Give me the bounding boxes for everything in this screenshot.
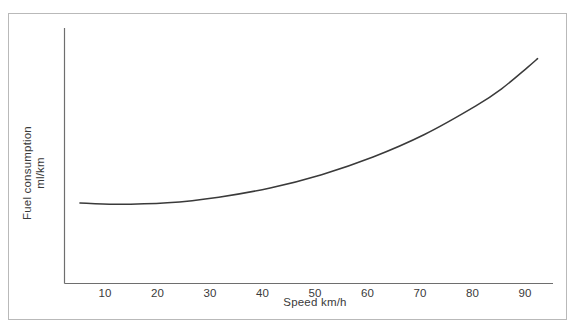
xtick-label-30: 30 (190, 287, 230, 299)
xtick-label-10: 10 (85, 287, 125, 299)
xtick-label-90: 90 (505, 287, 545, 299)
y-axis-title-line2: ml/km (34, 103, 47, 243)
y-axis-title-line1: Fuel consumption (21, 126, 33, 220)
xtick-label-70: 70 (400, 287, 440, 299)
x-axis-title: Speed km/h (255, 296, 375, 308)
xtick-label-20: 20 (138, 287, 178, 299)
y-axis-title: Fuel consumption ml/km (21, 103, 47, 243)
xtick-label-80: 80 (453, 287, 493, 299)
data-series-line (80, 59, 538, 205)
chart-figure: 10 20 30 40 50 60 70 80 90 Speed km/h Fu… (0, 0, 580, 334)
plot-area (0, 0, 580, 334)
